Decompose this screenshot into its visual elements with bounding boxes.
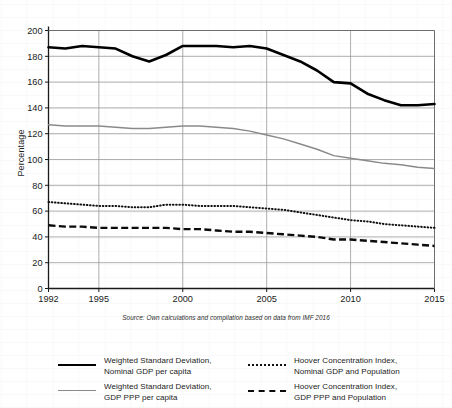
legend-item-wsd-ppp: Weighted Standard Deviation, GDP PPP per… bbox=[58, 382, 248, 408]
ytick-label-20: 20 bbox=[32, 258, 42, 268]
ytick-label-100: 100 bbox=[27, 155, 42, 165]
legend-item-hci-ppp: Hoover Concentration Index, GDP PPP and … bbox=[248, 382, 438, 408]
ytick-label-200: 200 bbox=[27, 26, 42, 36]
xtick-label-2005: 2005 bbox=[256, 294, 276, 304]
legend-label-line1: Weighted Standard Deviation, bbox=[104, 382, 212, 391]
legend-label-hci-nominal: Hoover Concentration Index, Nominal GDP … bbox=[294, 356, 400, 377]
legend-swatch-dotted-icon bbox=[248, 358, 286, 370]
series-line-2 bbox=[49, 202, 435, 228]
legend-swatch-dashed-icon bbox=[248, 384, 286, 396]
ytick-label-160: 160 bbox=[27, 77, 42, 87]
legend-label-wsd-ppp: Weighted Standard Deviation, GDP PPP per… bbox=[104, 382, 212, 403]
ytick-label-140: 140 bbox=[27, 103, 42, 113]
xtick-label-1995: 1995 bbox=[89, 294, 109, 304]
series-line-0 bbox=[49, 46, 435, 105]
axis-frame bbox=[49, 27, 435, 289]
legend-item-wsd-nominal: Weighted Standard Deviation, Nominal GDP… bbox=[58, 356, 248, 382]
chart-legend: Weighted Standard Deviation, Nominal GDP… bbox=[58, 356, 438, 408]
data-series-lines bbox=[49, 46, 435, 246]
series-line-1 bbox=[49, 125, 435, 169]
ytick-label-60: 60 bbox=[32, 206, 42, 216]
ytick-label-120: 120 bbox=[27, 129, 42, 139]
y-axis-tick-labels: 020406080100120140160180200 bbox=[27, 26, 42, 294]
legend-swatch-solid-thick-icon bbox=[58, 358, 96, 370]
chart-plot-area: 020406080100120140160180200 199219952000… bbox=[0, 0, 452, 310]
y-axis-title: Percentage bbox=[16, 113, 26, 193]
legend-label-hci-ppp: Hoover Concentration Index, GDP PPP and … bbox=[294, 382, 397, 403]
legend-label-line1: Hoover Concentration Index, bbox=[294, 382, 397, 391]
xtick-label-2010: 2010 bbox=[340, 294, 360, 304]
line-chart-figure: 020406080100120140160180200 199219952000… bbox=[0, 0, 452, 408]
legend-item-hci-nominal: Hoover Concentration Index, Nominal GDP … bbox=[248, 356, 438, 382]
legend-label-line2: GDP PPP and Population bbox=[294, 393, 386, 402]
legend-label-line1: Weighted Standard Deviation, bbox=[104, 356, 212, 365]
legend-label-line2: GDP PPP per capita bbox=[104, 393, 178, 402]
xtick-label-1992: 1992 bbox=[38, 294, 58, 304]
ytick-label-180: 180 bbox=[27, 52, 42, 62]
ytick-label-80: 80 bbox=[32, 181, 42, 191]
legend-label-line2: Nominal GDP per capita bbox=[104, 367, 191, 376]
legend-label-line1: Hoover Concentration Index, bbox=[294, 356, 397, 365]
ytick-label-0: 0 bbox=[37, 284, 42, 294]
ytick-label-40: 40 bbox=[32, 232, 42, 242]
series-line-3 bbox=[49, 225, 435, 246]
xtick-label-2015: 2015 bbox=[424, 294, 444, 304]
x-axis-tick-labels: 199219952000200520102015 bbox=[38, 294, 444, 304]
axis-tick-marks bbox=[45, 31, 435, 293]
source-note: Source: Own calculations and compilation… bbox=[0, 314, 452, 321]
legend-swatch-solid-gray-icon bbox=[58, 384, 96, 396]
legend-label-wsd-nominal: Weighted Standard Deviation, Nominal GDP… bbox=[104, 356, 212, 377]
xtick-label-2000: 2000 bbox=[173, 294, 193, 304]
legend-label-line2: Nominal GDP and Population bbox=[294, 367, 400, 376]
